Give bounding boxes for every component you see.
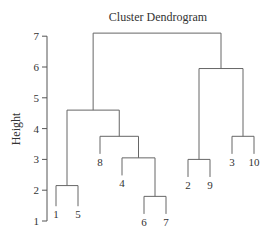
- y-axis-label: Height: [9, 112, 23, 145]
- y-tick-label: 7: [34, 30, 40, 42]
- leaf-label: 5: [75, 208, 81, 220]
- leaf-label: 4: [119, 177, 125, 189]
- dendrogram-tree: [56, 33, 254, 214]
- y-tick-label: 3: [34, 153, 40, 165]
- dendrogram-merge: [144, 196, 166, 214]
- y-axis: 1234567: [34, 30, 48, 227]
- dendrogram-merge: [122, 158, 155, 197]
- dendrogram-merge: [188, 159, 210, 177]
- dendrogram-merge: [67, 110, 119, 185]
- y-tick-label: 4: [34, 123, 40, 135]
- y-tick-label: 1: [34, 215, 40, 227]
- leaf-label: 7: [163, 216, 169, 228]
- dendrogram-merge: [56, 186, 78, 207]
- leaf-label: 1: [53, 208, 59, 220]
- dendrogram-merge: [232, 136, 254, 154]
- leaf-label: 8: [97, 156, 103, 168]
- leaf-labels: 15846729310: [53, 156, 260, 228]
- leaf-label: 6: [141, 216, 147, 228]
- y-tick-label: 5: [34, 92, 40, 104]
- y-tick-label: 2: [34, 184, 40, 196]
- chart-title: Cluster Dendrogram: [109, 10, 208, 24]
- leaf-label: 9: [207, 179, 213, 191]
- leaf-label: 10: [249, 156, 261, 168]
- y-tick-label: 6: [34, 61, 40, 73]
- dendrogram-merge: [93, 33, 221, 110]
- dendrogram-merge: [100, 136, 139, 158]
- dendrogram-merge: [199, 69, 243, 160]
- leaf-label: 2: [185, 179, 191, 191]
- dendrogram-chart: Cluster Dendrogram Height 1234567 158467…: [0, 0, 270, 237]
- leaf-label: 3: [229, 156, 235, 168]
